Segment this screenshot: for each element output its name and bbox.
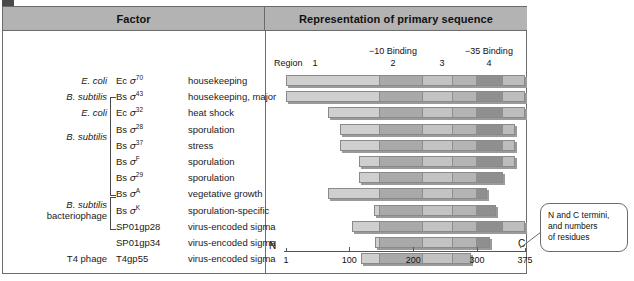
n-terminus-label: N [269,240,276,251]
sequence-bar [352,221,525,232]
bar-shadow-bottom [288,102,527,104]
sequence-region-segment [503,91,525,102]
factor-organism: B. subtilis [3,91,107,102]
factor-name: Bs σK [116,205,188,216]
factor-name: SP01gp34 [116,237,188,248]
factor-name: T4gp55 [116,253,188,264]
bar-shadow-bottom [354,232,527,234]
sequence-region-segment [380,221,423,232]
sequence-region-segment [453,107,477,118]
sequence-bar [286,91,525,102]
sequence-region-segment [477,237,490,248]
sequence-bar [328,188,487,199]
bar-shadow-right [515,126,517,137]
factor-organism: T4 phage [3,253,107,264]
factor-name: Bs σA [116,188,188,199]
sequence-region-segment [328,107,380,118]
factor-name: Bs σ28 [116,124,188,135]
factor-row: Bs σFsporulation [3,156,265,172]
factor-name: Bs σF [116,156,188,167]
sequence-region-segment [380,172,423,183]
sequence-region-segment [453,237,477,248]
sequence-region-segment [477,221,503,232]
sequence-region-segment [453,172,477,183]
sequence-region-segment [423,91,452,102]
sequence-region-segment [423,156,452,167]
sequence-region-segment [453,156,477,167]
sequence-region-segment [359,156,379,167]
callout-pointer-line [520,231,542,249]
sequence-region-segment [423,172,452,183]
bracket-b-subtilis [110,97,116,196]
axis-tick-label: 200 [398,255,428,265]
bar-shadow-bottom [330,118,527,120]
factor-table: E. coliEc σ70housekeepingB. subtilisBs σ… [3,31,265,274]
sequence-region-segment [477,75,503,86]
axis-tick [413,247,414,251]
factor-name: Bs σ43 [116,91,188,102]
residue-axis-line [284,251,526,252]
sequence-region-segment [503,107,525,118]
sequence-region-segment [477,205,496,216]
sequence-region-segment [453,91,477,102]
sequence-region-segment [423,205,452,216]
bar-shadow-bottom [361,167,517,169]
sequence-region-segment [340,124,380,135]
callout-line-2: and numbers [548,221,621,232]
sequence-column-header: Representation of primary sequence [265,7,527,31]
factor-organism: E. coli [3,75,107,86]
sequence-region-segment [477,188,487,199]
sequence-bar [374,205,497,216]
sequence-region-segment [477,140,503,151]
sequence-region-segment [453,221,477,232]
sequence-region-segment [380,75,423,86]
factor-organism: E. coli [3,107,107,118]
bar-shadow-bottom [361,183,504,185]
sequence-region-segment [423,75,452,86]
factor-name: Bs σ29 [116,172,188,183]
sequence-region-segment [286,91,380,102]
bar-shadow-right [503,174,505,185]
bracket-phage [110,197,116,230]
factor-column-header: Factor [3,7,265,31]
bar-shadow-right [487,190,489,201]
figure-frame: Factor Representation of primary sequenc… [2,6,527,274]
sequence-region-segment [423,124,452,135]
bar-shadow-bottom [342,135,518,137]
bar-shadow-right [525,109,527,120]
bar-shadow-right [515,142,517,153]
factor-row: SP01gp28virus-encoded sigma [3,221,265,237]
callout-line-3: of residues [548,232,621,243]
sequence-region-segment [453,188,477,199]
bar-shadow-right [525,93,527,104]
factor-row: B. subtilisBs σ43housekeeping, major [3,91,265,107]
sequence-region-segment [423,237,452,248]
sequence-region-segment [380,205,423,216]
axis-tick [349,247,350,251]
group-label-phage-line1: B. subtilis [66,199,107,210]
region-number-4: 4 [480,58,498,68]
sequence-region-segment [503,124,516,135]
factor-row: SP01gp34virus-encoded sigma [3,237,265,253]
sequence-bar [340,140,516,151]
group-label-phage-line2: bacteriophage [11,210,107,221]
sequence-region-segment [477,172,503,183]
bar-shadow-bottom [342,151,518,153]
factor-row: T4 phageT4gp55virus-encoded sigma [3,253,265,269]
sequence-region-segment [352,221,379,232]
bar-shadow-bottom [376,216,499,218]
sequence-region-segment [453,75,477,86]
sequence-region-segment [423,221,452,232]
axis-tick-label: 375 [510,255,540,265]
axis-tick-label: 300 [462,255,492,265]
minus10-binding-label: −10 Binding [358,46,428,56]
group-label-phage: B. subtilis bacteriophage [11,199,107,221]
factor-row: Bs σ37stress [3,140,265,156]
bar-shadow-right [525,77,527,88]
axis-tick [477,247,478,251]
axis-tick-label: 1 [271,255,301,265]
callout-box: N and C termini, and numbers of residues [540,203,628,252]
sequence-region-segment [328,188,380,199]
region-word-label: Region [274,58,303,68]
sequence-region-segment [477,107,503,118]
